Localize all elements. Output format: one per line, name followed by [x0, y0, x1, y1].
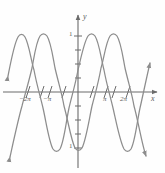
- x-tick-label-2pi: 2π: [120, 96, 127, 103]
- x-tick-label-negpi: −π: [43, 96, 51, 103]
- graph-figure: x y −2π −π π 2π 1 1: [0, 0, 165, 173]
- x-axis-label: x: [151, 95, 155, 103]
- y-axis-label: y: [83, 13, 87, 21]
- graph-canvas: [0, 0, 165, 173]
- y-tick-label-negative-one: 1: [69, 143, 73, 150]
- x-tick-label-pi: π: [103, 96, 107, 103]
- x-tick-label-neg2pi: −2π: [19, 96, 31, 103]
- y-tick-label-one: 1: [69, 31, 73, 38]
